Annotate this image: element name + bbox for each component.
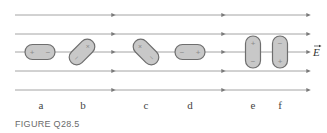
label-e: e <box>251 99 256 111</box>
dipole-diagram: E + − − + + − − + + − − + a b <box>0 0 327 133</box>
vector-arrowhead-icon <box>319 45 322 47</box>
label-a: a <box>39 99 44 111</box>
figure-caption: FIGURE Q28.5 <box>15 119 80 129</box>
charge-sign-right: + <box>196 48 201 57</box>
label-d: d <box>187 99 193 111</box>
charge-sign-top: − <box>278 39 283 48</box>
charge-sign-right: − <box>46 48 51 57</box>
charge-sign-left: − <box>180 48 185 57</box>
charge-sign-bottom: + <box>278 57 283 66</box>
charge-sign-top: + <box>251 39 256 48</box>
charge-sign-bottom: − <box>251 57 256 66</box>
label-b: b <box>80 99 86 111</box>
label-c: c <box>144 99 149 111</box>
dipole-c: + − <box>130 36 162 68</box>
dipole-a: + − <box>25 45 55 60</box>
dipole-e: + − <box>246 36 261 68</box>
dipole-labels: a b c d e f <box>39 99 283 111</box>
field-label-e: E <box>312 46 320 58</box>
dipole-d: − + <box>175 45 205 60</box>
dipole-b: − + <box>66 36 98 68</box>
label-f: f <box>278 99 282 111</box>
dipole-f: − + <box>273 36 288 68</box>
charge-sign-left: + <box>30 48 35 57</box>
field-label: E <box>312 45 322 58</box>
electric-field-lines <box>15 15 309 90</box>
